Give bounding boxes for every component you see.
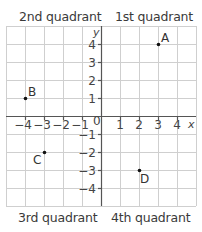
y-tick-neg4: −4 <box>78 182 96 196</box>
x-tick-neg2: −2 <box>52 118 70 132</box>
y-tick-neg2: −2 <box>78 146 96 160</box>
point-d-label: D <box>140 172 149 186</box>
x-tick-neg4: −4 <box>14 118 32 132</box>
point-b-label: B <box>28 85 36 99</box>
y-tick-2: 2 <box>88 74 96 88</box>
origin-label: 0 <box>93 114 101 128</box>
point-b <box>24 97 28 101</box>
x-tick-4: 4 <box>173 118 181 132</box>
x-tick-neg1: −1 <box>71 118 89 132</box>
axes <box>6 26 196 206</box>
coordinate-plane: y x 0 4 3 2 1 −1 −2 −3 −4 −4 −3 −2 −1 1 … <box>0 0 202 232</box>
point-c <box>43 151 47 155</box>
points: A B C D <box>24 31 170 186</box>
y-tick-3: 3 <box>88 56 96 70</box>
x-tick-neg3: −3 <box>33 118 51 132</box>
point-a-label: A <box>161 31 170 45</box>
point-c-label: C <box>33 153 41 167</box>
x-axis-label: x <box>187 118 195 131</box>
y-tick-4: 4 <box>88 38 96 52</box>
y-tick-1: 1 <box>88 92 96 106</box>
x-tick-2: 2 <box>135 118 143 132</box>
point-a <box>157 43 161 47</box>
x-tick-3: 3 <box>154 118 162 132</box>
y-tick-neg3: −3 <box>78 164 96 178</box>
x-tick-1: 1 <box>116 118 124 132</box>
